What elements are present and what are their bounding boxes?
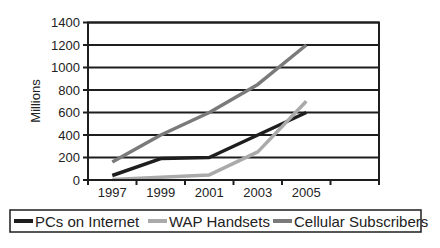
- legend-label: WAP Handsets: [169, 213, 270, 230]
- x-tick-label: 2005: [292, 185, 321, 200]
- legend-label: Cellular Subscribers: [294, 213, 428, 230]
- y-tick-label: 0: [73, 173, 80, 188]
- x-tick-label: 1997: [98, 185, 127, 200]
- y-tick-label: 400: [58, 128, 80, 143]
- plot-frame: [88, 23, 379, 181]
- y-tick-label: 200: [58, 150, 80, 165]
- x-axis-ticks: 19971999200120032005: [88, 180, 379, 200]
- series-line-cellular-subscribers: [112, 45, 306, 162]
- x-tick-label: 2003: [243, 185, 272, 200]
- x-tick-label: 2001: [195, 185, 224, 200]
- legend: PCs on InternetWAP HandsetsCellular Subs…: [10, 210, 428, 232]
- y-axis-title: Millions: [28, 79, 43, 123]
- line-chart: 0200400600800100012001400 19971999200120…: [0, 0, 440, 248]
- x-tick-label: 1999: [146, 185, 175, 200]
- legend-label: PCs on Internet: [35, 213, 140, 230]
- y-axis-ticks: 0200400600800100012001400: [51, 15, 88, 188]
- y-tick-label: 600: [58, 105, 80, 120]
- gridlines: [88, 23, 379, 181]
- y-tick-label: 800: [58, 83, 80, 98]
- y-tick-label: 1000: [51, 60, 80, 75]
- y-tick-label: 1400: [51, 15, 80, 30]
- y-tick-label: 1200: [51, 38, 80, 53]
